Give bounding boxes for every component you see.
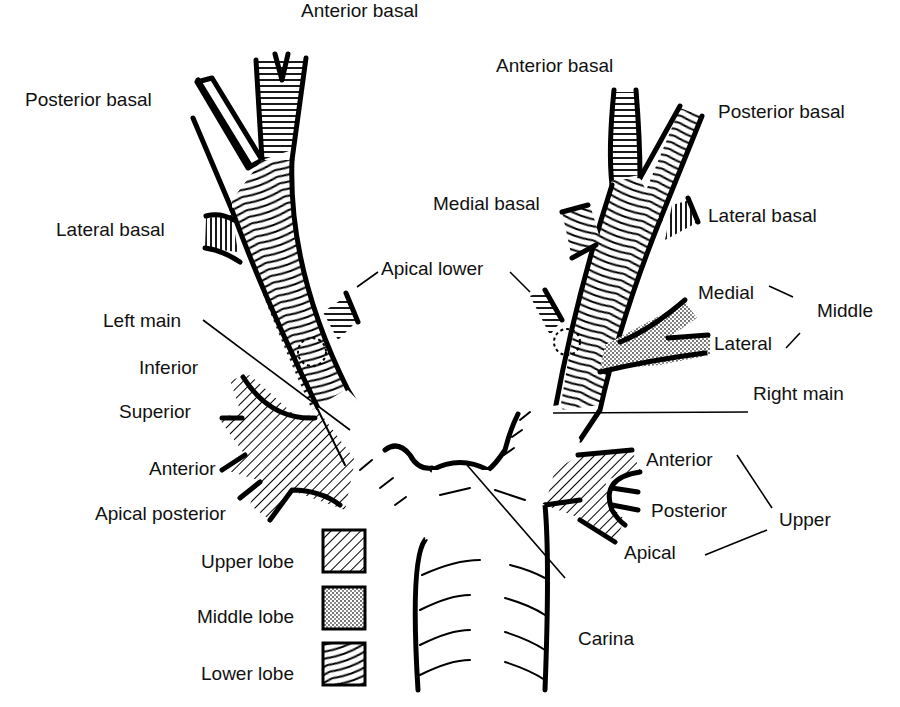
- label-right-posterior-basal: Posterior basal: [718, 101, 845, 123]
- label-superior: Superior: [119, 401, 191, 423]
- label-left-anterior: Anterior: [149, 458, 216, 480]
- label-left-lateral-basal: Lateral basal: [56, 219, 165, 241]
- label-right-anterior: Anterior: [646, 449, 713, 471]
- label-right-posterior: Posterior: [651, 500, 727, 522]
- label-medial-basal: Medial basal: [433, 193, 540, 215]
- label-left-main: Left main: [103, 310, 181, 332]
- legend-lower-lobe: Lower lobe: [201, 663, 294, 685]
- label-right-lateral-basal: Lateral basal: [708, 205, 817, 227]
- label-left-posterior-basal: Posterior basal: [25, 89, 152, 111]
- label-apical-posterior: Apical posterior: [95, 503, 226, 525]
- trachea: [415, 463, 547, 691]
- label-apical-lower-left: Apical lower: [381, 258, 483, 280]
- left-lower-lobe: [193, 54, 385, 450]
- label-apical: Apical: [624, 542, 676, 564]
- right-lower-lobe: [530, 90, 702, 440]
- label-middle: Middle: [817, 300, 873, 322]
- legend-middle-lobe: Middle lobe: [197, 606, 294, 628]
- label-carina: Carina: [578, 628, 634, 650]
- label-medial: Medial: [698, 282, 754, 304]
- label-right-main: Right main: [753, 383, 844, 405]
- legend-upper-lobe: Upper lobe: [201, 551, 294, 573]
- label-inferior: Inferior: [139, 357, 198, 379]
- label-right-anterior-basal: Anterior basal: [496, 55, 613, 77]
- legend-swatches: [323, 530, 365, 685]
- label-upper: Upper: [779, 509, 831, 531]
- label-lateral: Lateral: [714, 333, 772, 355]
- label-left-anterior-basal: Anterior basal: [301, 0, 418, 22]
- left-upper-lobe: [220, 375, 355, 520]
